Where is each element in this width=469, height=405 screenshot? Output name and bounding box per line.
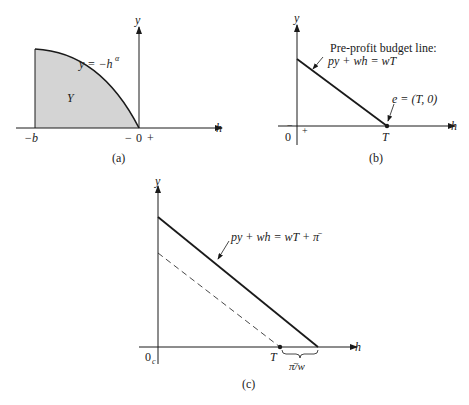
panel-b: y h Pre-profit budget line: py + wh = wT…	[278, 11, 457, 165]
tick-plus-b: +	[302, 125, 308, 136]
budget-line-b	[297, 59, 387, 126]
tick-origin-c: 0	[145, 350, 151, 364]
brace-label: π̄/w	[289, 360, 306, 372]
tick-minus-b: −	[287, 120, 293, 131]
budget-pointer-c	[218, 241, 229, 259]
endowment-point-c	[278, 345, 282, 349]
figure: y h y = −h α Y −b − 0 + (a) y h Pre-prof…	[0, 0, 469, 405]
endowment-point	[385, 124, 389, 128]
tick-origin-sub: c	[152, 357, 156, 366]
tick-zero-a: 0	[136, 131, 142, 145]
budget-equation-c: py + wh = wT + π̄	[230, 230, 322, 244]
tick-minus-a: −	[125, 131, 132, 145]
h-axis-label-b: h	[451, 119, 457, 133]
budget-equation-b: py + wh = wT	[327, 54, 398, 68]
tick-neg-b: −b	[24, 131, 38, 145]
panel-c: y h py + wh = wT + π̄ 0 c T π̄/w (c)	[139, 174, 361, 391]
curve-exponent: α	[115, 54, 120, 63]
endowment-label: e = (T, 0)	[392, 92, 437, 106]
curve-label: y = −h	[78, 57, 113, 71]
panel-a: y h y = −h α Y −b − 0 + (a)	[16, 13, 222, 165]
budget-title: Pre-profit budget line:	[330, 41, 437, 55]
y-axis-label-c: y	[154, 174, 161, 188]
h-axis-label-a: h	[216, 121, 222, 135]
endowment-pointer	[388, 104, 394, 121]
profit-brace	[282, 350, 318, 358]
tick-T-b: T	[382, 130, 390, 144]
y-axis-label-a: y	[134, 13, 141, 27]
caption-c: (c)	[242, 377, 255, 391]
caption-a: (a)	[112, 151, 125, 165]
budget-pointer-b	[313, 57, 323, 69]
h-axis-label-c: h	[355, 340, 361, 354]
tick-plus-a: +	[147, 131, 154, 145]
y-axis-label-b: y	[293, 11, 300, 25]
tick-T-c: T	[270, 350, 278, 364]
caption-b: (b)	[369, 151, 383, 165]
tick-zero-b: 0	[285, 130, 291, 144]
